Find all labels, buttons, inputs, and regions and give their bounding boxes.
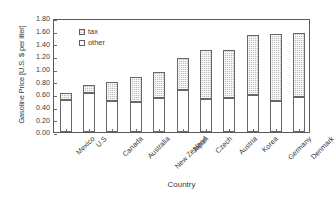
bar-segment-tax (106, 82, 118, 101)
x-axis-tick-label: Mexico (74, 135, 96, 157)
y-axis-tick-mark (54, 20, 57, 21)
y-axis-tick-mark (54, 96, 57, 97)
x-axis-title: Country (53, 180, 310, 189)
y-axis-tick-label: 0.60 (24, 91, 50, 98)
x-axis-tick-mark (66, 129, 67, 132)
y-axis-tick-label: 1.20 (24, 53, 50, 60)
bar-new-zealand[interactable] (153, 72, 165, 132)
bar-u-s[interactable] (83, 85, 95, 133)
x-axis-tick-mark (276, 129, 277, 132)
x-axis-tick-label: Germany (287, 135, 314, 162)
x-axis-tick-label: Canada (122, 135, 145, 158)
bar-segment-tax (177, 58, 189, 90)
bar-segment-tax (83, 85, 95, 93)
x-axis-tick-mark (112, 129, 113, 132)
legend-swatch-other-icon (79, 40, 85, 46)
x-axis-tick-label: Korea (260, 135, 279, 154)
legend-label-other: other (88, 37, 105, 48)
bar-australia[interactable] (130, 77, 142, 132)
bar-segment-other (270, 101, 282, 132)
y-axis-tick-label: 1.80 (24, 15, 50, 22)
bar-segment-tax (153, 72, 165, 99)
bar-segment-tax (270, 34, 282, 101)
x-axis-tick-mark (159, 129, 160, 132)
bar-segment-tax (60, 93, 72, 101)
y-axis-tick-mark (54, 83, 57, 84)
bar-segment-other (200, 99, 212, 132)
x-axis-tick-labels: MexicoU.SCanadaAustraliaNew ZealandJapan… (0, 133, 320, 175)
bar-segment-other (83, 93, 95, 132)
x-axis-tick-mark (136, 129, 137, 132)
bar-segment-tax (247, 35, 259, 95)
y-axis-tick-mark (54, 58, 57, 59)
x-axis-tick-mark (89, 129, 90, 132)
x-axis-tick-label: U.S (95, 135, 109, 149)
bar-segment-tax (130, 77, 142, 102)
y-axis-tick-mark (54, 109, 57, 110)
y-axis-tick-label: 1.00 (24, 66, 50, 73)
bar-segment-other (293, 97, 305, 132)
legend-label-tax: tax (88, 26, 98, 37)
bar-segment-tax (293, 33, 305, 97)
bar-segment-other (60, 100, 72, 132)
bar-segment-other (106, 101, 118, 132)
bar-korea[interactable] (247, 35, 259, 132)
x-axis-tick-label: Australia (146, 135, 171, 160)
bar-segment-tax (200, 50, 212, 99)
y-axis-tick-label: 1.60 (24, 28, 50, 35)
x-axis-tick-mark (183, 129, 184, 132)
y-axis-tick-mark (54, 71, 57, 72)
legend-item-other: other (79, 37, 105, 48)
x-axis-tick-mark (253, 129, 254, 132)
y-axis-tick-mark (54, 45, 57, 46)
legend-swatch-tax-icon (79, 29, 85, 35)
bar-segment-other (247, 95, 259, 132)
y-axis-tick-labels: 0.000.200.400.600.801.001.201.401.601.80 (24, 14, 50, 138)
y-axis-tick-label: 0.40 (24, 104, 50, 111)
chart-legend: tax other (79, 26, 105, 48)
bar-japan[interactable] (177, 58, 189, 132)
bar-mexico[interactable] (60, 93, 72, 132)
x-axis-tick-mark (206, 129, 207, 132)
bar-segment-tax (223, 50, 235, 99)
x-axis-tick-mark (229, 129, 230, 132)
y-axis-tick-label: 0.20 (24, 117, 50, 124)
x-axis-tick-label: Japan (190, 135, 210, 155)
bar-segment-other (177, 90, 189, 132)
x-axis-tick-label: Austria (238, 135, 259, 156)
bar-segment-other (223, 98, 235, 132)
y-axis-tick-label: 0.80 (24, 79, 50, 86)
bar-czech[interactable] (200, 50, 212, 132)
bar-denmark[interactable] (293, 33, 305, 132)
bar-segment-other (130, 102, 142, 132)
y-axis-tick-mark (54, 33, 57, 34)
x-axis-tick-label: Denmark (310, 135, 336, 161)
y-axis-tick-label: 1.40 (24, 41, 50, 48)
y-axis-tick-mark (54, 121, 57, 122)
legend-item-tax: tax (79, 26, 105, 37)
bar-segment-other (153, 98, 165, 132)
x-axis-tick-mark (299, 129, 300, 132)
bar-austria[interactable] (223, 50, 235, 132)
bar-canada[interactable] (106, 82, 118, 132)
x-axis-tick-label: Czech (214, 135, 234, 155)
bar-germany[interactable] (270, 34, 282, 132)
